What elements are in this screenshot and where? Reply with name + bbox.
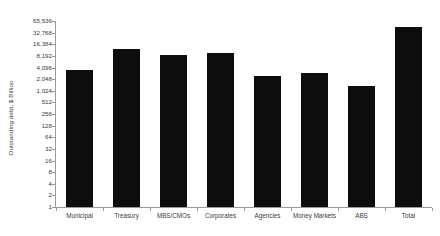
- x-axis-tick-mark: [197, 208, 198, 211]
- y-axis-tick-mark: [52, 68, 55, 69]
- x-axis-tick-mark: [432, 208, 433, 211]
- bar-column: [207, 16, 233, 207]
- x-axis-tick-mark: [150, 208, 151, 211]
- y-axis-tick-label: 2,048: [18, 76, 52, 82]
- x-axis-tick-mark: [103, 208, 104, 211]
- x-axis-tick-label: Treasury: [114, 213, 139, 219]
- x-axis-tick-label: Corporates: [205, 213, 236, 219]
- y-axis-tick-label: 8,192: [18, 53, 52, 59]
- y-axis-tick-mark: [52, 114, 55, 115]
- x-axis-tick-mark: [338, 208, 339, 211]
- bar-column: [66, 16, 92, 207]
- y-axis-tick-mark: [52, 91, 55, 92]
- y-axis-tick-mark: [52, 172, 55, 173]
- plot-area: [56, 16, 432, 207]
- y-axis-tick-mark: [52, 56, 55, 57]
- y-axis-tick-mark: [52, 161, 55, 162]
- bar[interactable]: [301, 73, 327, 207]
- x-axis-tick-label: ABS: [355, 213, 368, 219]
- y-axis-tick-label: 16,384: [18, 41, 52, 47]
- y-axis-tick-label: 32: [18, 146, 52, 152]
- y-axis-tick-label: 32,768: [18, 30, 52, 36]
- x-axis-tick-label: Money Markets: [293, 213, 336, 219]
- bar[interactable]: [207, 53, 233, 207]
- x-axis-tick-label: Total: [402, 213, 415, 219]
- y-axis-tick-mark: [52, 184, 55, 185]
- x-axis-tick-mark: [291, 208, 292, 211]
- y-axis-tick-mark: [52, 21, 55, 22]
- x-axis-tick-mark: [244, 208, 245, 211]
- y-axis-tick-label: 65,536: [18, 18, 52, 24]
- y-axis-tick-label: 2: [18, 192, 52, 198]
- bar-column: [395, 16, 421, 207]
- bar-column: [160, 16, 186, 207]
- y-axis-tick-labels: 12481632641282565121,0242,0484,0968,1921…: [18, 0, 52, 236]
- bar[interactable]: [160, 55, 186, 207]
- y-axis-tick-mark: [52, 79, 55, 80]
- bar[interactable]: [348, 86, 374, 207]
- bar[interactable]: [254, 76, 280, 207]
- y-axis-tick-label: 64: [18, 134, 52, 140]
- y-axis-tick-label: 4: [18, 181, 52, 187]
- x-axis-tick-mark: [56, 208, 57, 211]
- x-axis-tick-label: Municipal: [66, 213, 93, 219]
- bar[interactable]: [395, 27, 421, 207]
- y-axis-tick-mark: [52, 33, 55, 34]
- y-axis-title: Outstanding debt, $ Billion: [0, 0, 20, 236]
- x-axis-tick-label: Agencies: [255, 213, 281, 219]
- y-axis-tick-label: 1: [18, 204, 52, 210]
- x-axis-tick-labels: MunicipalTreasuryMBS/CMOsCorporatesAgenc…: [56, 213, 432, 233]
- y-axis-tick-mark: [52, 149, 55, 150]
- y-axis-tick-label: 16: [18, 157, 52, 163]
- x-axis-tick-label: MBS/CMOs: [157, 213, 190, 219]
- bar-column: [113, 16, 139, 207]
- y-axis-tick-mark: [52, 207, 55, 208]
- bar[interactable]: [113, 49, 139, 207]
- y-axis-tick-mark: [52, 195, 55, 196]
- y-axis-tick-label: 512: [18, 99, 52, 105]
- y-axis-tick-mark: [52, 137, 55, 138]
- y-axis-tick-label: 1,024: [18, 88, 52, 94]
- bar-chart: Outstanding debt, $ Billion 124816326412…: [0, 0, 440, 236]
- bar[interactable]: [66, 70, 92, 207]
- y-axis-tick-label: 128: [18, 123, 52, 129]
- y-axis-tick-mark: [52, 44, 55, 45]
- y-axis-tick-label: 256: [18, 111, 52, 117]
- x-axis-tick-mark: [385, 208, 386, 211]
- y-axis-tick-mark: [52, 102, 55, 103]
- y-axis-tick-label: 8: [18, 169, 52, 175]
- y-axis-tick-label: 4,096: [18, 64, 52, 70]
- bar-column: [348, 16, 374, 207]
- y-axis-tick-mark: [52, 126, 55, 127]
- bar-column: [301, 16, 327, 207]
- bar-column: [254, 16, 280, 207]
